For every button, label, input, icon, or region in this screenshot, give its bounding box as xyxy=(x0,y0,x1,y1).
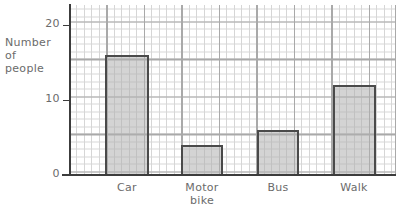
y-axis-title-line-3: people xyxy=(5,62,67,75)
category-label-walk: Walk xyxy=(326,181,382,194)
y-tick-mark-20 xyxy=(63,25,71,26)
category-label-walk-line-1: Walk xyxy=(326,181,382,194)
bar-car xyxy=(105,55,149,176)
y-axis-title-line-2: of xyxy=(5,49,67,62)
bar-motor-bike xyxy=(181,145,223,176)
category-label-car: Car xyxy=(99,181,155,194)
bar-bus xyxy=(257,130,299,176)
y-tick-label-10: 10 xyxy=(32,92,60,105)
category-label-bus-line-1: Bus xyxy=(250,181,306,194)
y-axis-title: Number of people xyxy=(5,36,67,75)
category-label-car-line-1: Car xyxy=(99,181,155,194)
bar-walk xyxy=(333,85,376,176)
category-label-motor-bike-line-1: Motor xyxy=(169,181,235,194)
category-label-bus: Bus xyxy=(250,181,306,194)
y-axis-line xyxy=(69,4,71,176)
y-tick-label-20: 20 xyxy=(32,17,60,30)
y-axis-title-line-1: Number xyxy=(5,36,67,49)
y-tick-mark-10 xyxy=(63,100,71,101)
y-tick-mark-0 xyxy=(63,175,71,176)
x-axis-line xyxy=(62,174,396,176)
bar-chart: 0 10 20 Number of people Car Motor bike … xyxy=(0,0,396,205)
y-tick-label-0: 0 xyxy=(32,167,60,180)
category-label-motor-bike: Motor bike xyxy=(169,181,235,205)
category-label-motor-bike-line-2: bike xyxy=(169,194,235,205)
